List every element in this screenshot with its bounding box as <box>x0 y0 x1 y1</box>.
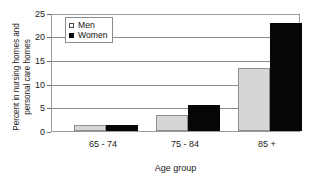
x-tick-label-75-84: 75 - 84 <box>155 139 215 149</box>
bar-chart-figure: Percent in nursing homes and personal ca… <box>0 0 312 187</box>
gridline-15 <box>52 61 299 62</box>
plot-area: Men Women <box>51 14 300 132</box>
bar-men-85-plus <box>238 68 270 131</box>
legend-item-men: Men <box>69 20 107 30</box>
y-tick-label-5: 5 <box>27 103 45 113</box>
y-tick-label-10: 10 <box>27 80 45 90</box>
legend-swatch-women-icon <box>69 33 74 38</box>
bar-men-65-74 <box>74 125 106 131</box>
y-tick-label-15: 15 <box>27 56 45 66</box>
legend-label-women: Women <box>78 30 107 40</box>
bar-women-85-plus <box>270 23 302 131</box>
y-axis-title-line-2: personal care homes <box>22 7 33 147</box>
y-axis-title: Percent in nursing homes and personal ca… <box>11 7 41 147</box>
bar-women-75-84 <box>188 105 220 131</box>
bar-women-65-74 <box>106 125 138 131</box>
bar-men-75-84 <box>156 115 188 131</box>
y-tick-label-20: 20 <box>27 32 45 42</box>
legend-item-women: Women <box>69 30 107 40</box>
y-tick-label-0: 0 <box>27 127 45 137</box>
y-tick-mark-0 <box>47 132 51 133</box>
chart-legend: Men Women <box>65 17 113 43</box>
y-axis-title-line-1: Percent in nursing homes and <box>11 7 22 147</box>
legend-label-men: Men <box>78 20 95 30</box>
x-axis-title: Age group <box>51 163 300 173</box>
legend-swatch-men-icon <box>69 23 74 28</box>
x-tick-label-65-74: 65 - 74 <box>73 139 133 149</box>
x-tick-label-85-plus: 85 + <box>237 139 297 149</box>
y-tick-label-25: 25 <box>27 9 45 19</box>
